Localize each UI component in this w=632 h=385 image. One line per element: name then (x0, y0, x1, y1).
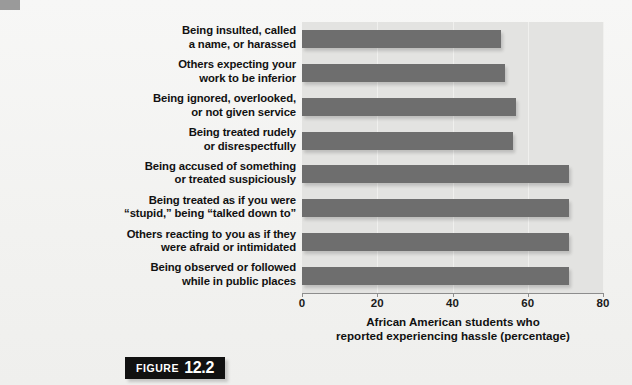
figure-banner: FIGURE 12.2 (125, 357, 225, 379)
category-label-line: Being treated rudely (110, 126, 296, 140)
gridline (377, 22, 378, 293)
category-label-line: Being insulted, called (110, 24, 296, 38)
bar (302, 30, 501, 48)
x-axis-title: African American students who reported e… (302, 315, 604, 343)
category-label-line: or treated suspiciously (110, 173, 296, 187)
category-label: Others reacting to you as if theywere af… (110, 228, 296, 255)
plot-area (302, 22, 603, 293)
category-label-line: Being observed or followed (110, 261, 296, 275)
category-label: Being observed or followedwhile in publi… (110, 261, 296, 288)
x-axis-tick-label: 80 (597, 297, 610, 309)
x-axis-tick-label: 20 (371, 297, 384, 309)
gridline (453, 22, 454, 293)
plot-inner (302, 22, 603, 293)
category-label-line: Others reacting to you as if they (110, 228, 296, 242)
figure-number: 12.2 (184, 359, 214, 377)
x-axis-title-line-2: reported experiencing hassle (percentage… (302, 329, 604, 343)
figure-page: Being insulted, calleda name, or harasse… (0, 0, 632, 385)
figure-word: FIGURE (136, 362, 179, 374)
bar (302, 64, 505, 82)
category-label: Being ignored, overlooked,or not given s… (110, 92, 296, 119)
bar (302, 132, 513, 150)
bar (302, 267, 569, 285)
category-label-line: a name, or harassed (110, 38, 296, 52)
category-label-line: while in public places (110, 275, 296, 289)
x-axis-tick-label: 40 (446, 297, 459, 309)
x-axis-tick-label: 60 (521, 297, 534, 309)
category-label: Being treated as if you were“stupid,” be… (110, 194, 296, 221)
bar (302, 165, 569, 183)
bar (302, 199, 569, 217)
gridline (603, 22, 604, 293)
category-label-line: work to be inferior (110, 72, 296, 86)
category-label-line: or disrespectfully (110, 140, 296, 154)
x-axis-tick-label: 0 (299, 297, 305, 309)
category-label-line: Being treated as if you were (110, 194, 296, 208)
x-axis-title-line-1: African American students who (302, 315, 604, 329)
category-label: Being treated rudelyor disrespectfully (110, 126, 296, 153)
bar (302, 98, 516, 116)
category-label-column: Being insulted, calleda name, or harasse… (110, 22, 296, 293)
category-label-line: or not given service (110, 106, 296, 120)
category-label-line: Being ignored, overlooked, (110, 92, 296, 106)
category-label-line: Being accused of something (110, 160, 296, 174)
category-label: Being insulted, calleda name, or harasse… (110, 24, 296, 51)
category-label: Being accused of somethingor treated sus… (110, 160, 296, 187)
bar (302, 233, 569, 251)
gridline (528, 22, 529, 293)
category-label: Others expecting yourwork to be inferior (110, 58, 296, 85)
category-label-line: were afraid or intimidated (110, 241, 296, 255)
bar-chart: Being insulted, calleda name, or harasse… (0, 0, 632, 352)
category-label-line: Others expecting your (110, 58, 296, 72)
category-label-line: “stupid,” being “talked down to” (110, 207, 296, 221)
